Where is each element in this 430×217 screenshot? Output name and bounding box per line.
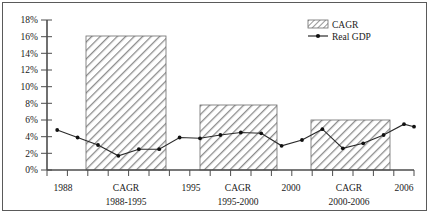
data-point [239,131,243,135]
y-tick-label: 4% [25,132,38,142]
x-axis: 1988 CAGR 1988-1995 1995 CAGR 1995-2000 … [47,170,414,207]
chart-figure: 18% 16% 14% 12% 10% 8% 6% 4% 2% 0% [0,0,430,217]
x-axis-group-label: 2000 [282,183,301,193]
data-point [178,136,182,140]
y-axis: 18% 16% 14% 12% 10% 8% 6% 4% 2% 0% [21,15,52,175]
y-tick-label: 0% [25,165,38,175]
x-axis-group-label: 2006 [395,183,414,193]
data-point [412,125,416,129]
legend-label-real-gdp: Real GDP [332,32,371,42]
x-axis-group-label: 1995 [182,183,201,193]
x-axis-group-label: 1988 [54,183,73,193]
legend-label-cagr: CAGR [332,20,359,30]
data-point [402,122,406,126]
y-tick-label: 2% [25,149,38,159]
cagr-bar-1995-2000 [200,105,277,170]
data-point [96,143,100,147]
chart-legend: CAGR Real GDP [308,20,371,42]
x-axis-group-label: CAGR [336,183,363,193]
x-axis-group-label: CAGR [113,183,140,193]
data-point [361,141,365,145]
legend-swatch-cagr [308,20,328,28]
y-tick-label: 10% [21,82,39,92]
cagr-bar-1988-1995 [86,36,166,170]
data-point [117,154,121,158]
data-point [300,138,304,142]
chart-plot: 18% 16% 14% 12% 10% 8% 6% 4% 2% 0% [0,0,430,217]
legend-marker-real-gdp [316,34,320,38]
y-tick-label: 6% [25,115,38,125]
y-tick-label: 14% [21,49,39,59]
data-point [280,144,284,148]
data-point [259,131,263,135]
data-point [55,128,59,132]
y-tick-label: 16% [21,32,39,42]
data-point [157,147,161,151]
data-point [321,127,325,131]
data-point [137,147,141,151]
y-tick-label: 18% [21,15,39,25]
x-axis-group-sublabel: 1995-2000 [217,197,258,207]
cagr-bars [86,36,390,170]
y-tick-label: 8% [25,99,38,109]
data-point [198,136,202,140]
data-point [219,133,223,137]
data-point [382,133,386,137]
x-axis-group-sublabel: 1988-1995 [105,197,146,207]
data-point [341,146,345,150]
x-axis-group-sublabel: 2000-2006 [328,197,369,207]
y-tick-label: 12% [21,65,39,75]
x-axis-group-label: CAGR [225,183,252,193]
data-point [76,136,80,140]
